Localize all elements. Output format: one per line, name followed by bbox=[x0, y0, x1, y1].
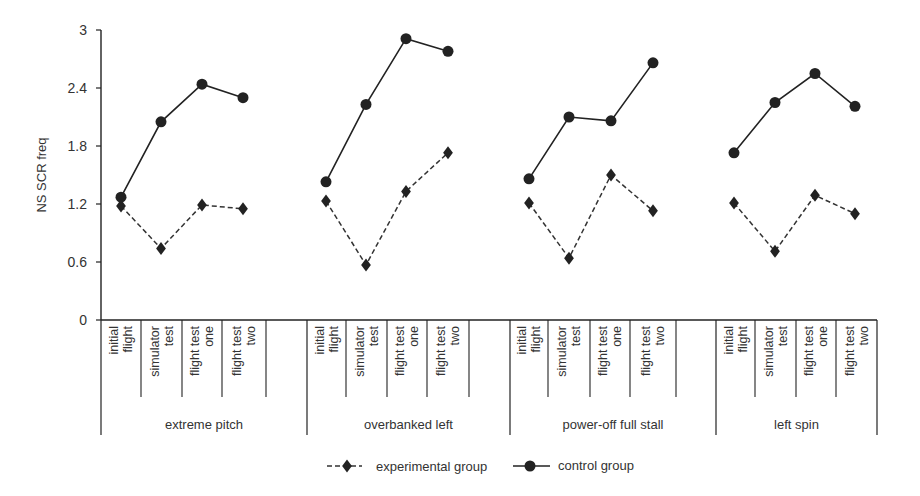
category-label-line: initial bbox=[107, 326, 121, 355]
category-label: initialflight bbox=[107, 325, 135, 354]
line-chart: 00.61.21.82.43NS SCR freq initialflights… bbox=[0, 0, 920, 496]
control-line bbox=[529, 63, 653, 179]
y-tick-label: 3 bbox=[79, 22, 87, 38]
category-label-line: test bbox=[776, 325, 790, 346]
category-label-line: flight bbox=[736, 325, 750, 352]
experimental-line bbox=[734, 195, 855, 251]
legend: experimental groupcontrol group bbox=[327, 458, 634, 474]
control-point-marker bbox=[648, 57, 659, 68]
y-tick-label: 0.6 bbox=[68, 254, 88, 270]
y-tick-label: 1.8 bbox=[68, 138, 88, 154]
y-axis: 00.61.21.82.43NS SCR freq bbox=[34, 22, 101, 328]
control-point-marker bbox=[770, 97, 781, 108]
category-label: initialflight bbox=[313, 325, 341, 354]
y-tick-label: 2.4 bbox=[68, 80, 88, 96]
group-series bbox=[116, 79, 249, 255]
category-label-line: flight test bbox=[639, 325, 653, 376]
control-point-marker bbox=[197, 79, 208, 90]
circle-marker-icon bbox=[525, 461, 536, 472]
category-label: flight testtwo bbox=[639, 325, 667, 376]
category-label: flight testone bbox=[188, 325, 216, 376]
control-point-marker bbox=[810, 68, 821, 79]
group-series bbox=[729, 68, 861, 258]
control-line bbox=[734, 74, 855, 153]
category-label-line: two bbox=[653, 326, 667, 346]
experimental-point-marker bbox=[238, 202, 248, 215]
experimental-point-marker bbox=[729, 197, 739, 210]
category-label-line: test bbox=[162, 325, 176, 346]
category-label: flight testone bbox=[802, 325, 830, 376]
category-label-line: simulator bbox=[762, 326, 776, 377]
control-point-marker bbox=[524, 173, 535, 184]
category-label-line: flight test bbox=[843, 325, 857, 376]
category-label-line: flight bbox=[327, 325, 341, 352]
group-label: power-off full stall bbox=[563, 417, 664, 432]
category-label-line: one bbox=[610, 326, 624, 347]
x-axis: initialflightsimulatortestflight testone… bbox=[101, 320, 877, 435]
category-label: flight testtwo bbox=[843, 325, 871, 376]
category-label-line: simulator bbox=[353, 326, 367, 377]
group-label: overbanked left bbox=[364, 417, 453, 432]
category-label-line: test bbox=[367, 325, 381, 346]
category-label: simulatortest bbox=[762, 325, 790, 376]
category-label: simulatortest bbox=[148, 325, 176, 376]
experimental-line bbox=[121, 205, 243, 249]
experimental-point-marker bbox=[810, 189, 820, 202]
category-label: initialflight bbox=[515, 325, 543, 354]
group-series bbox=[321, 33, 454, 271]
category-label-line: one bbox=[407, 326, 421, 347]
control-point-marker bbox=[401, 33, 412, 44]
category-label-line: two bbox=[244, 326, 258, 346]
experimental-point-marker bbox=[606, 169, 616, 182]
category-label-line: flight test bbox=[596, 325, 610, 376]
category-label-line: two bbox=[448, 326, 462, 346]
category-label: initialflight bbox=[722, 325, 750, 354]
control-point-marker bbox=[361, 99, 372, 110]
category-label: flight testone bbox=[393, 325, 421, 376]
category-label-line: flight bbox=[529, 325, 543, 352]
group-label: left spin bbox=[774, 417, 819, 432]
experimental-point-marker bbox=[443, 146, 453, 159]
control-line bbox=[121, 84, 243, 197]
category-label-line: simulator bbox=[148, 326, 162, 377]
experimental-point-marker bbox=[564, 252, 574, 265]
category-label-line: flight test bbox=[434, 325, 448, 376]
plot-area bbox=[116, 33, 861, 271]
control-point-marker bbox=[443, 46, 454, 57]
diamond-marker-icon bbox=[342, 460, 352, 473]
category-label: simulatortest bbox=[555, 325, 583, 376]
experimental-point-marker bbox=[361, 258, 371, 271]
category-label-line: one bbox=[202, 326, 216, 347]
control-point-marker bbox=[156, 116, 167, 127]
group-series bbox=[524, 57, 659, 264]
experimental-point-marker bbox=[524, 197, 534, 210]
control-point-marker bbox=[238, 92, 249, 103]
category-label-line: two bbox=[857, 326, 871, 346]
category-label: flight testtwo bbox=[434, 325, 462, 376]
category-label-line: one bbox=[816, 326, 830, 347]
y-tick-label: 0 bbox=[79, 312, 87, 328]
legend-item-control: control group bbox=[513, 458, 634, 473]
category-label-line: initial bbox=[313, 326, 327, 355]
category-label-line: flight test bbox=[230, 325, 244, 376]
experimental-point-marker bbox=[648, 204, 658, 217]
control-point-marker bbox=[850, 101, 861, 112]
category-label-line: simulator bbox=[555, 326, 569, 377]
category-label: simulatortest bbox=[353, 325, 381, 376]
control-point-marker bbox=[321, 176, 332, 187]
control-line bbox=[326, 39, 448, 182]
category-label: flight testone bbox=[596, 325, 624, 376]
category-label-line: flight test bbox=[188, 325, 202, 376]
category-label-line: flight bbox=[121, 325, 135, 352]
legend-label-experimental: experimental group bbox=[376, 459, 487, 474]
y-axis-title: NS SCR freq bbox=[34, 137, 49, 212]
experimental-line bbox=[529, 175, 653, 258]
legend-item-experimental: experimental group bbox=[327, 459, 487, 474]
experimental-point-marker bbox=[321, 195, 331, 208]
control-point-marker bbox=[729, 147, 740, 158]
control-point-marker bbox=[606, 115, 617, 126]
category-label: flight testtwo bbox=[230, 325, 258, 376]
y-tick-label: 1.2 bbox=[68, 196, 88, 212]
category-label-line: flight test bbox=[393, 325, 407, 376]
category-label-line: initial bbox=[515, 326, 529, 355]
